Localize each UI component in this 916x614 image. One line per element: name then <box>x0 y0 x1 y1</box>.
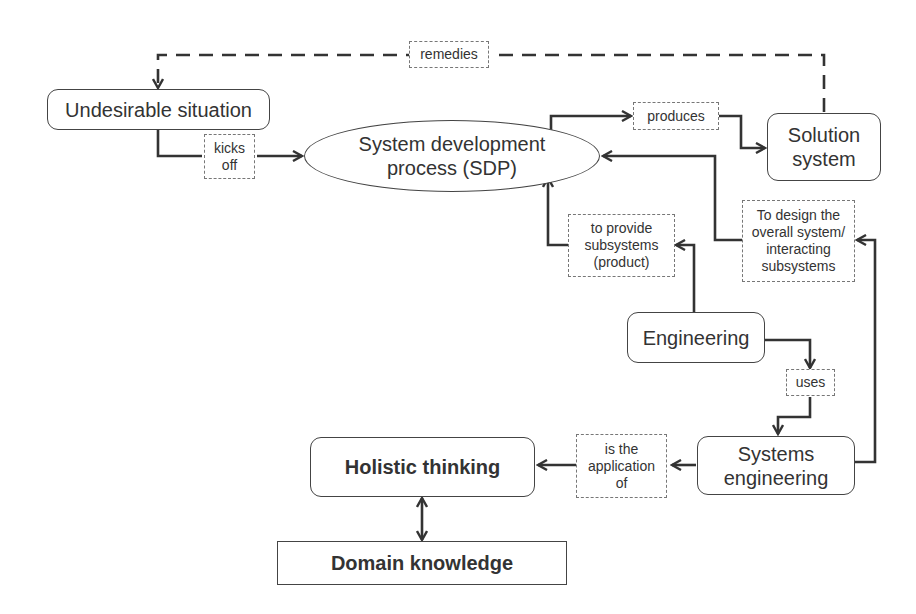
node-undesirable-situation: Undesirable situation <box>47 89 270 130</box>
node-domain-knowledge-text: Domain knowledge <box>331 552 513 575</box>
node-systems-engineering: Systems engineering <box>697 436 855 495</box>
label-remedies: remedies <box>409 41 489 68</box>
node-systems-engineering-text: Systems engineering <box>724 442 829 490</box>
label-remedies-text: remedies <box>420 46 478 63</box>
label-produces: produces <box>633 102 719 130</box>
label-to-design: To design the overall system/ interactin… <box>742 200 855 282</box>
node-solution-system-text: Solution system <box>788 123 860 171</box>
node-holistic-thinking-text: Holistic thinking <box>345 456 501 479</box>
node-engineering: Engineering <box>627 312 765 363</box>
label-kicks-off: kicks off <box>204 134 255 179</box>
label-uses-text: uses <box>796 374 826 391</box>
node-sdp: System development process (SDP) <box>304 120 600 192</box>
label-is-application-of-text: is the application of <box>588 441 655 492</box>
node-sdp-text: System development process (SDP) <box>359 132 546 180</box>
node-holistic-thinking: Holistic thinking <box>310 437 535 497</box>
label-to-design-text: To design the overall system/ interactin… <box>752 207 845 275</box>
label-is-application-of: is the application of <box>576 434 667 498</box>
node-undesirable-situation-text: Undesirable situation <box>65 98 252 122</box>
label-to-provide-text: to provide subsystems (product) <box>585 220 659 271</box>
label-uses: uses <box>786 369 835 396</box>
node-solution-system: Solution system <box>767 113 881 181</box>
label-to-provide: to provide subsystems (product) <box>568 214 675 277</box>
node-engineering-text: Engineering <box>643 326 750 350</box>
node-domain-knowledge: Domain knowledge <box>277 541 567 585</box>
label-kicks-off-text: kicks off <box>214 140 245 174</box>
label-produces-text: produces <box>647 108 705 125</box>
